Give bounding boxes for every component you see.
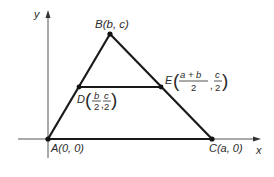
svg-text:b: b: [94, 90, 99, 101]
svg-text:2: 2: [104, 101, 109, 112]
svg-text:,: ,: [210, 80, 213, 91]
point-E: [159, 85, 164, 90]
svg-text:2: 2: [94, 101, 99, 112]
y-axis-label: y: [33, 8, 41, 20]
label-E: E ( a + b 2 , c 2 ): [165, 69, 228, 93]
svg-text:a + b: a + b: [180, 69, 201, 80]
svg-text:2: 2: [215, 82, 220, 93]
point-A: [45, 136, 50, 141]
svg-text:c: c: [104, 90, 109, 101]
svg-text:A(0, 0): A(0, 0): [50, 142, 84, 154]
svg-text:(: (: [173, 70, 180, 91]
point-B: [107, 31, 112, 36]
paren-open: (: [85, 89, 92, 110]
svg-text:E: E: [165, 74, 173, 86]
svg-text:B(b, c): B(b, c): [95, 18, 129, 30]
label-D: D ( b 2 , c 2 ): [77, 89, 117, 112]
label-A: A(0, 0): [50, 142, 84, 154]
triangle-midsegment-diagram: y x B(b, c) A(0, 0) C(a, 0) D ( b 2 , c …: [0, 0, 274, 177]
paren-close: ): [111, 89, 117, 110]
svg-text:c: c: [215, 69, 220, 80]
label-C: C(a, 0): [209, 142, 243, 154]
svg-text:C(a, 0): C(a, 0): [209, 142, 243, 154]
point-C: [209, 136, 214, 141]
triangle: [48, 34, 212, 139]
svg-text:D: D: [77, 93, 85, 105]
svg-text:2: 2: [191, 82, 196, 93]
x-axis-label: x: [255, 144, 262, 156]
label-B: B(b, c): [95, 18, 129, 30]
y-axis-arrow-icon: [46, 10, 51, 18]
x-axis-arrow-icon: [253, 137, 261, 142]
svg-text:): ): [222, 70, 228, 91]
point-D: [77, 85, 82, 90]
